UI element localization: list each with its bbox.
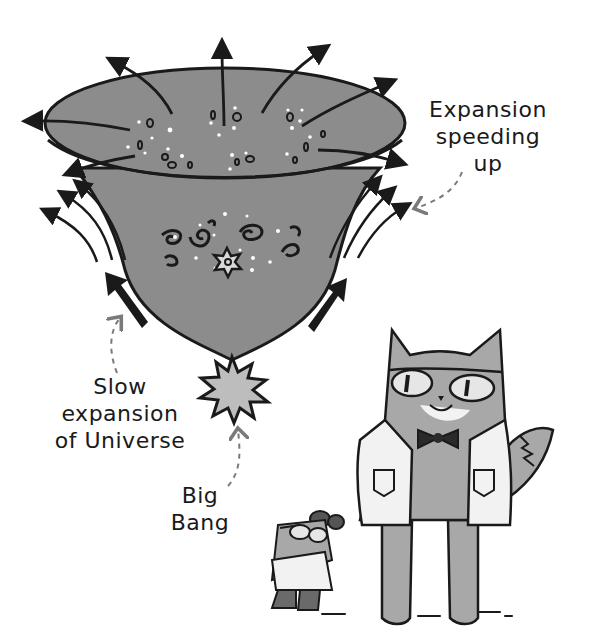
label-slow-expansion: Slow expansion of Universe: [40, 373, 200, 454]
label-line: Bang: [160, 509, 240, 536]
big-bang-burst-icon: [200, 357, 268, 423]
pointer-expansion: [416, 172, 462, 208]
label-big-bang: Big Bang: [160, 482, 240, 536]
label-line: Expansion: [418, 96, 558, 123]
label-line: of Universe: [40, 427, 200, 454]
ground-marks: [322, 612, 512, 616]
label-line: Big: [160, 482, 240, 509]
pointer-bigbang: [228, 430, 239, 486]
universe-expansion-illustration: Expansion speeding up Slow expansion of …: [0, 0, 599, 643]
cat-scientist: [357, 330, 553, 624]
label-line: speeding: [418, 123, 558, 150]
mouse-scientist: [272, 511, 344, 610]
label-line: Slow: [40, 373, 200, 400]
label-expansion-speeding-up: Expansion speeding up: [418, 96, 558, 177]
label-line: up: [418, 150, 558, 177]
pointer-slow: [111, 318, 120, 373]
label-line: expansion: [40, 400, 200, 427]
